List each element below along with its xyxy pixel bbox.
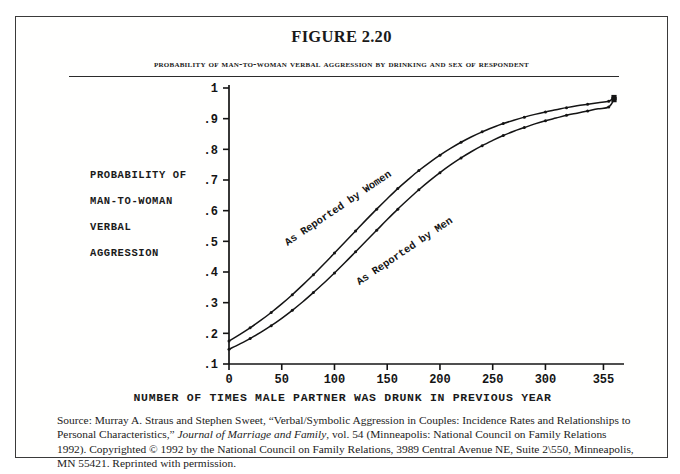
x-tick-label: 300 bbox=[535, 373, 557, 387]
data-point-marker bbox=[228, 348, 231, 351]
data-point-marker bbox=[481, 130, 484, 133]
x-tick-label: 150 bbox=[376, 373, 398, 387]
chart-plot-area: .1.2.3.4.5.6.7.8.91 05010015020025030035… bbox=[16, 79, 669, 399]
source-note: Source: Murray A. Straus and Stephen Swe… bbox=[57, 413, 635, 471]
data-point-marker bbox=[438, 171, 441, 174]
y-tick-label: .2 bbox=[204, 328, 218, 342]
series-line bbox=[229, 98, 614, 341]
y-tick-label: .1 bbox=[204, 358, 218, 372]
data-point-marker bbox=[417, 169, 420, 172]
y-axis-ticks: .1.2.3.4.5.6.7.8.91 bbox=[204, 82, 229, 372]
data-point-marker bbox=[228, 340, 231, 343]
data-point-marker bbox=[460, 141, 463, 144]
line-chart-svg: .1.2.3.4.5.6.7.8.91 05010015020025030035… bbox=[16, 79, 669, 399]
figure-number-heading: FIGURE 2.20 bbox=[16, 27, 667, 47]
data-point-marker bbox=[565, 106, 568, 109]
x-tick-label: 100 bbox=[324, 373, 346, 387]
figure-subtitle: Probability of Man-to-Woman Verbal Aggre… bbox=[16, 58, 667, 69]
data-point-marker bbox=[249, 326, 252, 329]
chart-axes bbox=[229, 85, 624, 364]
x-tick-label: 250 bbox=[482, 373, 504, 387]
data-point-marker bbox=[354, 250, 357, 253]
data-point-marker bbox=[333, 251, 336, 254]
x-axis-title: NUMBER OF TIMES MALE PARTNER WAS DRUNK I… bbox=[16, 391, 669, 404]
x-tick-label: 0 bbox=[225, 373, 232, 387]
subtitle-divider bbox=[69, 76, 619, 77]
source-journal-title: Journal of Marriage and Family bbox=[178, 428, 327, 440]
y-tick-label: 1 bbox=[211, 82, 218, 96]
data-point-marker bbox=[438, 154, 441, 157]
data-point-marker bbox=[312, 291, 315, 294]
data-point-marker bbox=[523, 116, 526, 119]
series-annotation-label: As Reported by Men bbox=[354, 214, 455, 287]
data-point-marker bbox=[270, 324, 273, 327]
data-point-marker bbox=[481, 144, 484, 147]
data-point-marker bbox=[249, 337, 252, 340]
y-tick-label: .6 bbox=[204, 205, 218, 219]
data-point-marker bbox=[417, 188, 420, 191]
y-tick-label: .5 bbox=[204, 236, 218, 250]
data-point-marker bbox=[607, 106, 610, 109]
series-end-marker bbox=[611, 97, 616, 102]
data-point-marker bbox=[396, 187, 399, 190]
x-tick-label: 200 bbox=[429, 373, 451, 387]
data-point-marker bbox=[544, 110, 547, 113]
data-point-marker bbox=[460, 156, 463, 159]
data-point-marker bbox=[375, 208, 378, 211]
data-point-marker bbox=[396, 208, 399, 211]
y-tick-label: .4 bbox=[204, 266, 218, 280]
y-tick-label: .7 bbox=[204, 174, 218, 188]
y-tick-label: .8 bbox=[204, 144, 218, 158]
data-point-marker bbox=[312, 273, 315, 276]
data-point-marker bbox=[586, 110, 589, 113]
source-line-2-post: , vol. 54 (Minneapolis: National Council… bbox=[326, 428, 560, 440]
y-tick-label: .3 bbox=[204, 297, 218, 311]
data-point-marker bbox=[270, 311, 273, 314]
data-point-marker bbox=[607, 100, 610, 103]
x-tick-label: 50 bbox=[275, 373, 289, 387]
data-point-marker bbox=[544, 119, 547, 122]
data-point-marker bbox=[565, 114, 568, 117]
data-point-marker bbox=[291, 309, 294, 312]
data-point-marker bbox=[354, 229, 357, 232]
series-line bbox=[229, 100, 614, 350]
bottom-divider bbox=[17, 457, 667, 458]
y-tick-label: .9 bbox=[204, 113, 218, 127]
x-tick-label: 355 bbox=[593, 373, 615, 387]
chart-data-markers bbox=[228, 95, 617, 351]
figure-frame: FIGURE 2.20 Probability of Man-to-Woman … bbox=[15, 16, 668, 458]
data-point-marker bbox=[586, 103, 589, 106]
data-point-marker bbox=[333, 271, 336, 274]
data-point-marker bbox=[502, 122, 505, 125]
data-point-marker bbox=[523, 126, 526, 129]
source-line-1: Source: Murray A. Straus and Stephen Swe… bbox=[57, 414, 619, 426]
data-point-marker bbox=[375, 229, 378, 232]
chart-series-lines bbox=[229, 98, 614, 350]
data-point-marker bbox=[502, 134, 505, 137]
chart-series-annotations: As Reported by WomenAs Reported by Men bbox=[282, 168, 454, 288]
x-axis-ticks: 050100150200250300355 bbox=[225, 364, 614, 387]
data-point-marker bbox=[291, 293, 294, 296]
